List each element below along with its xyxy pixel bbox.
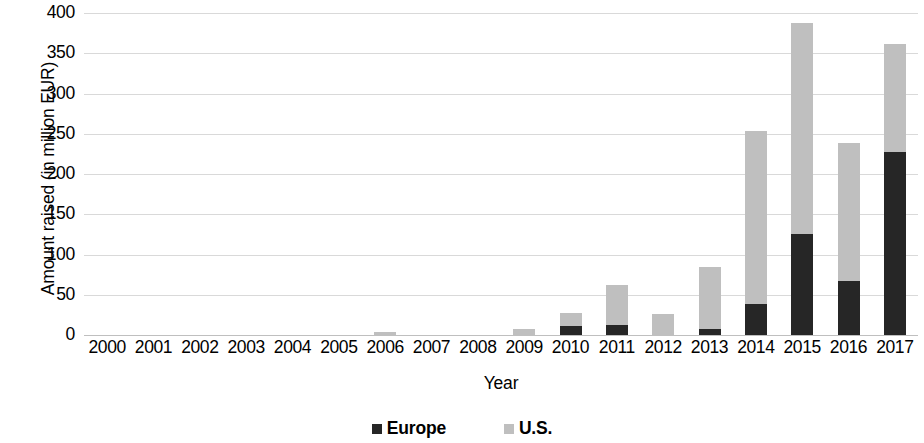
x-axis-tick-label: 2014 xyxy=(737,339,774,357)
x-axis-tick-label: 2010 xyxy=(552,339,589,357)
bar-column[interactable] xyxy=(282,13,304,335)
x-axis-tick-label: 2005 xyxy=(320,339,357,357)
bar-column[interactable] xyxy=(467,13,489,335)
x-axis-tick-label: 2012 xyxy=(644,339,681,357)
bar-segment-europe[interactable] xyxy=(745,304,767,335)
y-axis-tick-label: 200 xyxy=(5,165,75,183)
bar-column[interactable] xyxy=(96,13,118,335)
bar-column[interactable] xyxy=(374,13,396,335)
bar-segment-europe[interactable] xyxy=(699,329,721,335)
bar-segment-europe[interactable] xyxy=(560,326,582,335)
x-axis-tick-label: 2000 xyxy=(88,339,125,357)
y-axis-tick-label: 0 xyxy=(5,326,75,344)
x-axis-tick-label: 2011 xyxy=(599,339,635,357)
bar-segment-us[interactable] xyxy=(745,131,767,304)
x-axis-tick-label: 2008 xyxy=(459,339,496,357)
x-axis-tick-label: 2015 xyxy=(783,339,820,357)
y-axis-tick-label: 250 xyxy=(5,125,75,143)
legend-swatch-europe-icon xyxy=(372,424,382,434)
y-axis-tick-label: 50 xyxy=(5,286,75,304)
bar-segment-us[interactable] xyxy=(374,332,396,335)
y-axis-tick-label: 400 xyxy=(5,4,75,22)
chart-legend: EuropeU.S. xyxy=(0,418,924,439)
bar-column[interactable] xyxy=(745,13,767,335)
bar-column[interactable] xyxy=(421,13,443,335)
x-axis-tick-label: 2009 xyxy=(505,339,542,357)
bar-series-group xyxy=(84,13,918,335)
y-axis-tick-labels: 050100150200250300350400 xyxy=(0,0,84,443)
bar-column[interactable] xyxy=(328,13,350,335)
bar-column[interactable] xyxy=(560,13,582,335)
bar-chart: Amount raised (in million EUR) 050100150… xyxy=(0,0,924,443)
y-axis-tick-label: 150 xyxy=(5,206,75,224)
bar-column[interactable] xyxy=(884,13,906,335)
bar-segment-europe[interactable] xyxy=(884,152,906,335)
x-axis-tick-label: 2001 xyxy=(135,339,172,357)
bar-segment-europe[interactable] xyxy=(606,325,628,335)
x-axis-tick-labels: 2000200120022003200420052006200720082009… xyxy=(84,339,918,365)
x-axis-tick-label: 2006 xyxy=(366,339,403,357)
bar-column[interactable] xyxy=(699,13,721,335)
legend-label: Europe xyxy=(387,418,446,439)
x-axis-tick-label: 2004 xyxy=(274,339,311,357)
bar-segment-us[interactable] xyxy=(699,267,721,329)
bar-column[interactable] xyxy=(143,13,165,335)
bar-column[interactable] xyxy=(606,13,628,335)
y-axis-tick-label: 300 xyxy=(5,85,75,103)
x-axis-tick-label: 2017 xyxy=(876,339,913,357)
gridline xyxy=(84,335,918,336)
bar-segment-us[interactable] xyxy=(884,44,906,153)
bar-column[interactable] xyxy=(838,13,860,335)
bar-segment-us[interactable] xyxy=(791,23,813,233)
y-axis-tick-label: 100 xyxy=(5,246,75,264)
bar-column[interactable] xyxy=(189,13,211,335)
x-axis-tick-label: 2003 xyxy=(227,339,264,357)
x-axis-tick-label: 2007 xyxy=(413,339,450,357)
legend-swatch-us-icon xyxy=(504,424,514,434)
bar-column[interactable] xyxy=(652,13,674,335)
x-axis-tick-label: 2002 xyxy=(181,339,218,357)
bar-column[interactable] xyxy=(235,13,257,335)
bar-segment-us[interactable] xyxy=(606,285,628,325)
legend-item-us[interactable]: U.S. xyxy=(504,418,552,439)
x-axis-tick-label: 2016 xyxy=(830,339,867,357)
bar-segment-europe[interactable] xyxy=(791,234,813,335)
bar-column[interactable] xyxy=(513,13,535,335)
bar-segment-us[interactable] xyxy=(652,314,674,335)
bar-segment-us[interactable] xyxy=(560,313,582,326)
y-axis-tick-label: 350 xyxy=(5,45,75,63)
bar-segment-europe[interactable] xyxy=(838,281,860,335)
bar-segment-us[interactable] xyxy=(513,329,535,335)
plot-area xyxy=(84,13,918,335)
bar-segment-us[interactable] xyxy=(838,143,860,281)
x-axis-tick-label: 2013 xyxy=(691,339,728,357)
legend-item-europe[interactable]: Europe xyxy=(372,418,446,439)
x-axis-title: Year xyxy=(84,373,918,394)
bar-column[interactable] xyxy=(791,13,813,335)
legend-label: U.S. xyxy=(519,418,552,439)
